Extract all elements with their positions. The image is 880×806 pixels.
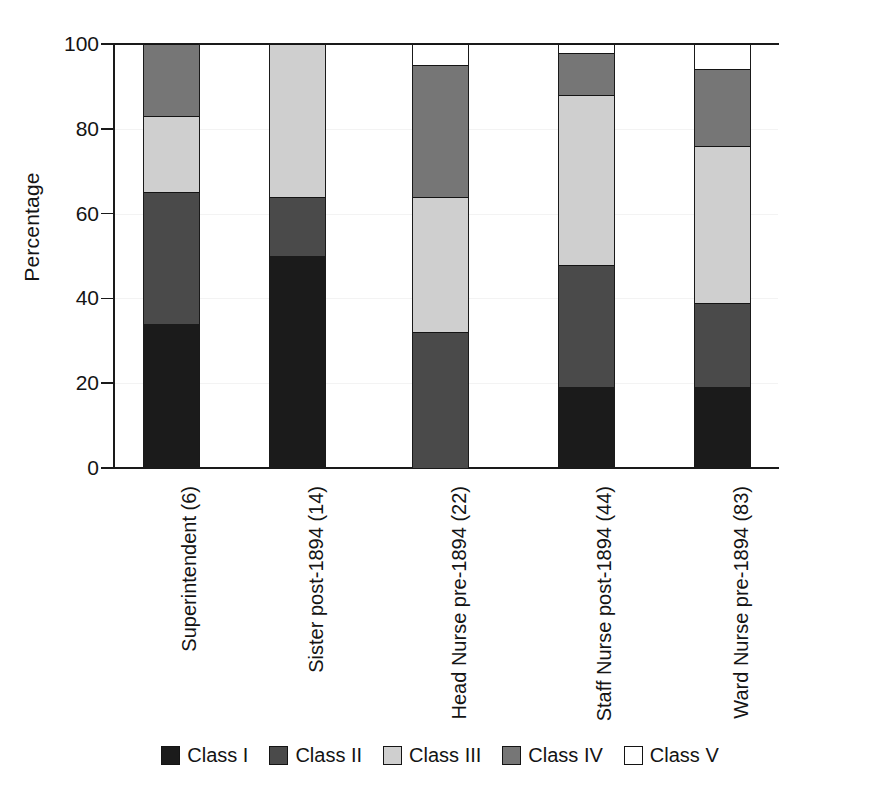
bar-segment-class-5: [558, 44, 615, 52]
bar-segment-class-4: [558, 53, 615, 95]
plot-area: [113, 44, 778, 468]
bar-segment-class-3: [558, 95, 615, 265]
legend-label-3: Class III: [409, 744, 481, 767]
bar-segment-class-4: [143, 44, 200, 116]
legend-item-5[interactable]: Class V: [624, 744, 719, 767]
bar-segment-class-3: [269, 44, 326, 197]
bar-1: [143, 44, 200, 468]
bar-segment-class-5: [412, 44, 469, 65]
y-tick-label: 20: [29, 371, 99, 395]
legend-item-2[interactable]: Class II: [269, 744, 362, 767]
legend-swatch-class-3: [383, 746, 402, 765]
x-tick-label-1: Superintendent (6): [178, 486, 201, 652]
bar-segment-class-5: [694, 44, 751, 69]
stacked-bar-chart: Percentage 020406080100 Superintendent (…: [0, 0, 880, 806]
legend-item-1[interactable]: Class I: [161, 744, 248, 767]
y-tick-label: 100: [29, 32, 99, 56]
bar-segment-class-3: [143, 116, 200, 192]
legend-label-2: Class II: [295, 744, 362, 767]
bar-segment-class-1: [143, 324, 200, 468]
legend-swatch-class-4: [502, 746, 521, 765]
bar-4: [558, 44, 615, 468]
bar-5: [694, 44, 751, 468]
bar-segment-class-2: [558, 265, 615, 388]
legend-swatch-class-5: [624, 746, 643, 765]
y-tick-label: 60: [29, 202, 99, 226]
legend-label-5: Class V: [650, 744, 719, 767]
legend-swatch-class-1: [161, 746, 180, 765]
bar-segment-class-3: [412, 197, 469, 333]
x-tick-label-3: Head Nurse pre-1894 (22): [448, 486, 471, 719]
x-tick-label-5: Ward Nurse pre-1894 (83): [730, 486, 753, 719]
bar-3: [412, 44, 469, 468]
y-tick-label: 40: [29, 286, 99, 310]
bar-segment-class-4: [694, 69, 751, 145]
y-tick-label: 0: [29, 456, 99, 480]
bar-segment-class-2: [694, 303, 751, 388]
bar-segment-class-1: [558, 387, 615, 468]
legend-swatch-class-2: [269, 746, 288, 765]
bar-segment-class-1: [269, 256, 326, 468]
bar-segment-class-2: [269, 197, 326, 256]
legend-item-3[interactable]: Class III: [383, 744, 481, 767]
legend-label-4: Class IV: [528, 744, 602, 767]
y-tick-label: 80: [29, 117, 99, 141]
x-tick-label-2: Sister post-1894 (14): [305, 486, 328, 673]
legend-label-1: Class I: [187, 744, 248, 767]
bar-segment-class-2: [412, 332, 469, 468]
x-tick-label-4: Staff Nurse post-1894 (44): [593, 486, 616, 721]
chart-legend: Class IClass IIClass IIIClass IVClass V: [0, 744, 880, 767]
legend-item-4[interactable]: Class IV: [502, 744, 602, 767]
bar-segment-class-3: [694, 146, 751, 303]
bar-2: [269, 44, 326, 468]
bar-segment-class-1: [694, 387, 751, 468]
bar-segment-class-2: [143, 192, 200, 323]
bar-segment-class-4: [412, 65, 469, 196]
